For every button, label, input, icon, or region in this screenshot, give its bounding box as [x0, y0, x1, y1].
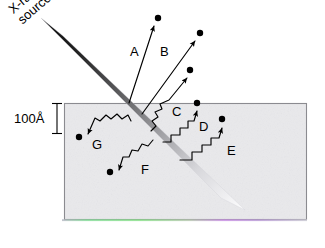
- track-B: [142, 30, 203, 114]
- track-label-D: D: [199, 120, 208, 133]
- track-label-G: G: [92, 138, 102, 151]
- scale-bar: [52, 103, 62, 134]
- diagram-svg: [0, 0, 325, 248]
- track-label-E: E: [227, 144, 236, 157]
- bottom-color-fringe: [62, 219, 307, 221]
- diagram-canvas: X-ray source 100Å A B C D E F G: [0, 0, 325, 248]
- track-label-B: B: [160, 45, 169, 58]
- track-label-F: F: [141, 163, 149, 176]
- track-label-A: A: [130, 45, 139, 58]
- track-label-C: C: [172, 105, 181, 118]
- scale-bar-label: 100Å: [14, 111, 44, 126]
